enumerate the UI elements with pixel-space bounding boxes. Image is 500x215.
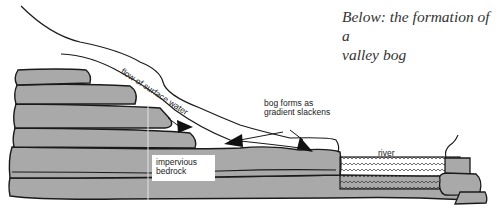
bog-forms-label: bog forms as gradient slackens [264,99,330,117]
impervious-bedrock-label-box: impervious bedrock [152,155,215,181]
bedrock-label-line-2: bedrock [156,166,186,176]
stratum-3 [15,84,137,104]
caption-line-2: valley bog [342,45,500,64]
bog-label-line-2: gradient slackens [264,108,330,117]
valley-bog-diagram: Below: the formation of a valley bog flo… [0,0,500,215]
stratum-4 [15,69,90,85]
stratum-1 [13,128,196,148]
diagram-caption: Below: the formation of a valley bog [342,7,500,64]
river-label: river [378,149,395,158]
bedrock-label: impervious bedrock [156,158,197,175]
right-bank-base [455,192,487,204]
caption-line-1: Below: the formation of a [342,7,500,45]
